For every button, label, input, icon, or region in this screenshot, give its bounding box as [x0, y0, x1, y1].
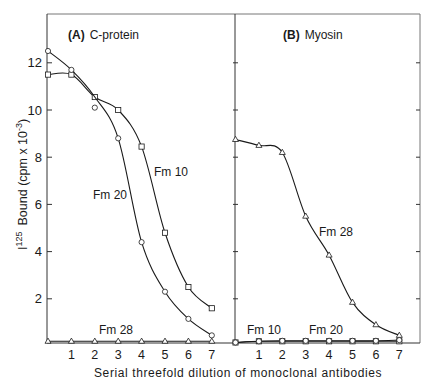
x-tick-label: 2 — [279, 348, 286, 362]
triangle-marker — [115, 338, 121, 343]
circle-marker — [373, 338, 378, 343]
series-curve — [48, 51, 212, 335]
square-marker — [45, 72, 50, 77]
x-tick-label: 5 — [162, 348, 169, 362]
x-tick-label: 4 — [326, 348, 333, 362]
triangle-marker — [92, 338, 98, 343]
y-axis-label: I125Bound (cpm x 10-3) — [14, 119, 30, 250]
annotation-b-fm20: Fm 20 — [309, 323, 343, 337]
x-tick-labels-A: 1234567 — [68, 348, 215, 362]
circle-marker — [397, 338, 402, 343]
triangle-marker — [233, 136, 239, 141]
triangle-marker — [303, 213, 309, 218]
panel-b-title: (B)Myosin — [283, 28, 343, 42]
square-marker — [116, 107, 121, 112]
y-ticks-A — [47, 63, 52, 299]
square-marker — [162, 230, 167, 235]
figure: 24681012 1234567 1234567 (A)C-protein (B… — [0, 0, 433, 389]
y-tick-label: 8 — [35, 150, 42, 165]
triangle-marker — [162, 338, 168, 343]
circle-marker — [256, 339, 261, 344]
y-tick-label: 2 — [35, 291, 42, 306]
circle-marker — [139, 240, 144, 245]
triangle-marker — [185, 338, 191, 343]
circle-marker — [45, 48, 50, 53]
y-tick-label: 12 — [28, 55, 42, 70]
triangle-marker — [45, 338, 51, 343]
x-tick-labels-B: 1234567 — [255, 348, 402, 362]
square-marker — [186, 284, 191, 289]
panel-a-title: (A)C-protein — [68, 28, 139, 42]
x-tick-label: 6 — [372, 348, 379, 362]
triangle-marker — [373, 322, 379, 327]
circle-marker — [186, 316, 191, 321]
square-marker — [209, 306, 214, 311]
y-tick-label: 4 — [35, 244, 42, 259]
series-curve — [236, 140, 400, 336]
series-B-fm28 — [233, 136, 403, 337]
circle-marker — [162, 289, 167, 294]
x-tick-label: 5 — [349, 348, 356, 362]
x-tick-label: 2 — [91, 348, 98, 362]
y-ticks-right — [416, 63, 420, 299]
x-tick-label: 3 — [302, 348, 309, 362]
annotation-b-fm28: Fm 28 — [319, 225, 353, 239]
circle-marker — [350, 338, 355, 343]
x-tick-label: 1 — [255, 348, 262, 362]
circle-marker — [116, 136, 121, 141]
x-tick-label: 4 — [138, 348, 145, 362]
square-marker — [139, 144, 144, 149]
y-tick-label: 6 — [35, 197, 42, 212]
circle-marker — [92, 105, 97, 110]
x-tick-label: 1 — [68, 348, 75, 362]
series-A-fm20 — [45, 48, 214, 338]
x-tick-label: 3 — [115, 348, 122, 362]
annotation-a-fm10: Fm 10 — [154, 165, 188, 179]
circle-marker — [69, 67, 74, 72]
circle-marker — [327, 338, 332, 343]
triangle-marker — [68, 338, 74, 343]
triangle-marker — [139, 338, 145, 343]
circle-marker — [303, 338, 308, 343]
x-axis-label: Serial threefold dilution of monoclonal … — [94, 366, 382, 380]
triangle-marker — [326, 252, 332, 257]
x-tick-label: 6 — [185, 348, 192, 362]
annotation-b-fm10: Fm 10 — [247, 323, 281, 337]
annotation-a-fm28: Fm 28 — [99, 323, 133, 337]
annotation-a-fm20: Fm 20 — [93, 188, 127, 202]
y-tick-label: 10 — [28, 103, 42, 118]
circle-marker — [233, 340, 238, 345]
circle-marker — [280, 338, 285, 343]
circle-marker — [209, 333, 214, 338]
x-tick-label: 7 — [208, 348, 215, 362]
triangle-marker — [209, 338, 215, 343]
x-tick-label: 7 — [396, 348, 403, 362]
